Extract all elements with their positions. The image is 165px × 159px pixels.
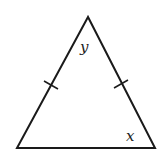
triangle-diagram: y x (0, 0, 165, 159)
triangle-figure: y x (0, 0, 165, 159)
apex-angle-label: y (79, 38, 89, 56)
left-side-tick-mark (44, 81, 58, 89)
base-angle-label: x (126, 127, 135, 145)
